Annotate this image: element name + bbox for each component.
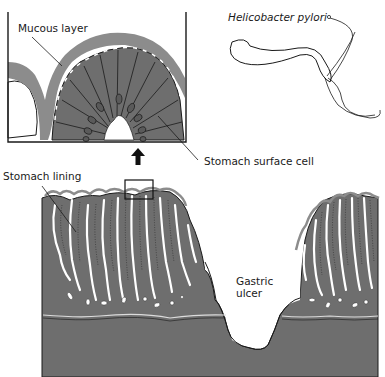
gastric-ulcer-label: Gastric ulcer: [236, 275, 273, 299]
helicobacter-pylori-label: Helicobacter pylori: [228, 11, 327, 23]
mucous-layer-label: Mucous layer: [18, 22, 88, 34]
stomach-surface-cell-label: Stomach surface cell: [204, 155, 314, 167]
stomach-lining-cross-section: [42, 180, 379, 377]
gastric-ulcer-label-line2: ulcer: [236, 287, 273, 299]
stomach-ulcer-diagram: [0, 0, 385, 377]
helicobacter-pylori-illustration: [230, 15, 380, 118]
stomach-lining-label: Stomach lining: [3, 170, 81, 182]
gastric-ulcer-label-line1: Gastric: [236, 275, 273, 287]
up-arrow-icon: [131, 148, 145, 165]
inset-magnified-view: [8, 12, 198, 160]
